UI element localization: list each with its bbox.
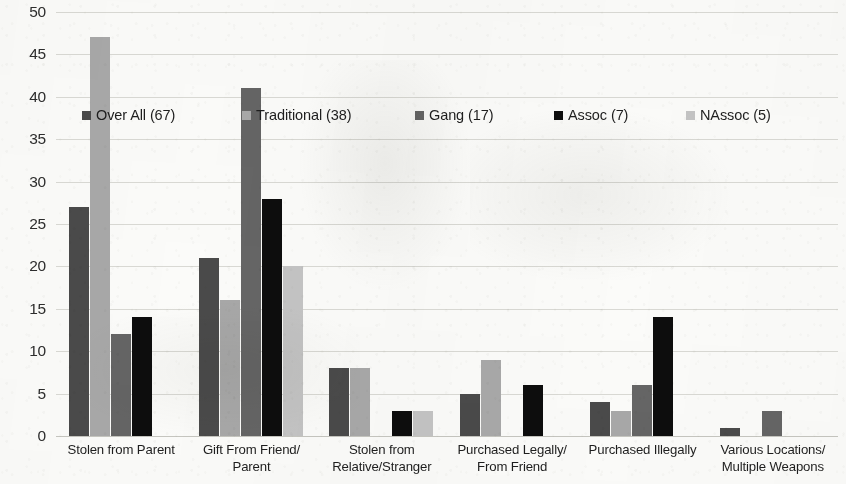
bar[interactable] <box>90 37 110 436</box>
bar[interactable] <box>720 428 740 436</box>
legend-label: NAssoc (5) <box>700 108 771 123</box>
x-axis-label-0: Stolen from Parent <box>56 441 186 458</box>
x-label-line: Relative/Stranger <box>317 458 447 475</box>
y-tick-label-5: 5 <box>6 386 46 402</box>
bar-chart: 50454035302520151050 Over All (67)Tradit… <box>0 0 846 484</box>
legend-label: Over All (67) <box>96 108 175 123</box>
bars-layer <box>56 12 838 436</box>
bar[interactable] <box>241 88 261 436</box>
y-tick-label-25: 25 <box>6 216 46 232</box>
bar[interactable] <box>132 317 152 436</box>
y-tick-label-15: 15 <box>6 301 46 317</box>
x-axis-label-3: Purchased Legally/From Friend <box>447 441 577 476</box>
x-axis-label-5: Various Locations/Multiple Weapons <box>708 441 838 476</box>
y-tick-label-40: 40 <box>6 89 46 105</box>
x-axis-category-labels: Stolen from ParentGift From Friend/Paren… <box>56 441 838 484</box>
y-tick-label-30: 30 <box>6 174 46 190</box>
x-label-line: Multiple Weapons <box>708 458 838 475</box>
y-axis: 50454035302520151050 <box>0 12 46 436</box>
x-label-line: Parent <box>186 458 316 475</box>
y-tick-label-20: 20 <box>6 259 46 275</box>
chart-legend: Over All (67)Traditional (38)Gang (17)As… <box>82 103 782 127</box>
bar[interactable] <box>220 300 240 436</box>
bar[interactable] <box>413 411 433 436</box>
legend-label: Assoc (7) <box>568 108 628 123</box>
x-label-line: Various Locations/ <box>708 441 838 458</box>
legend-item[interactable]: NAssoc (5) <box>686 108 771 123</box>
legend-item[interactable]: Assoc (7) <box>554 108 628 123</box>
legend-item[interactable]: Gang (17) <box>415 108 493 123</box>
x-axis-label-4: Purchased Illegally <box>577 441 707 458</box>
legend-item[interactable]: Traditional (38) <box>242 108 351 123</box>
plot-area <box>56 12 838 436</box>
bar[interactable] <box>111 334 131 436</box>
legend-item[interactable]: Over All (67) <box>82 108 175 123</box>
bar[interactable] <box>523 385 543 436</box>
bar[interactable] <box>590 402 610 436</box>
x-label-line: Stolen from <box>317 441 447 458</box>
gridline-0 <box>56 436 838 437</box>
bar[interactable] <box>392 411 412 436</box>
legend-label: Gang (17) <box>429 108 493 123</box>
bar[interactable] <box>262 199 282 436</box>
legend-label: Traditional (38) <box>256 108 351 123</box>
bar[interactable] <box>611 411 631 436</box>
x-label-line: From Friend <box>447 458 577 475</box>
legend-swatch-icon <box>415 111 424 120</box>
x-label-line: Gift From Friend/ <box>186 441 316 458</box>
x-axis-label-1: Gift From Friend/Parent <box>186 441 316 476</box>
bar[interactable] <box>653 317 673 436</box>
legend-swatch-icon <box>554 111 563 120</box>
legend-swatch-icon <box>82 111 91 120</box>
bar[interactable] <box>481 360 501 436</box>
bar[interactable] <box>199 258 219 436</box>
y-tick-label-50: 50 <box>6 4 46 20</box>
bar[interactable] <box>350 368 370 436</box>
y-tick-label-45: 45 <box>6 47 46 63</box>
bar[interactable] <box>69 207 89 436</box>
x-label-line: Stolen from Parent <box>56 441 186 458</box>
x-axis-label-2: Stolen fromRelative/Stranger <box>317 441 447 476</box>
bar[interactable] <box>329 368 349 436</box>
y-tick-label-0: 0 <box>6 428 46 444</box>
legend-swatch-icon <box>686 111 695 120</box>
bar[interactable] <box>762 411 782 436</box>
y-tick-label-10: 10 <box>6 343 46 359</box>
bar[interactable] <box>632 385 652 436</box>
bar[interactable] <box>283 266 303 436</box>
legend-swatch-icon <box>242 111 251 120</box>
bar[interactable] <box>460 394 480 436</box>
y-tick-label-35: 35 <box>6 131 46 147</box>
x-label-line: Purchased Legally/ <box>447 441 577 458</box>
x-label-line: Purchased Illegally <box>577 441 707 458</box>
